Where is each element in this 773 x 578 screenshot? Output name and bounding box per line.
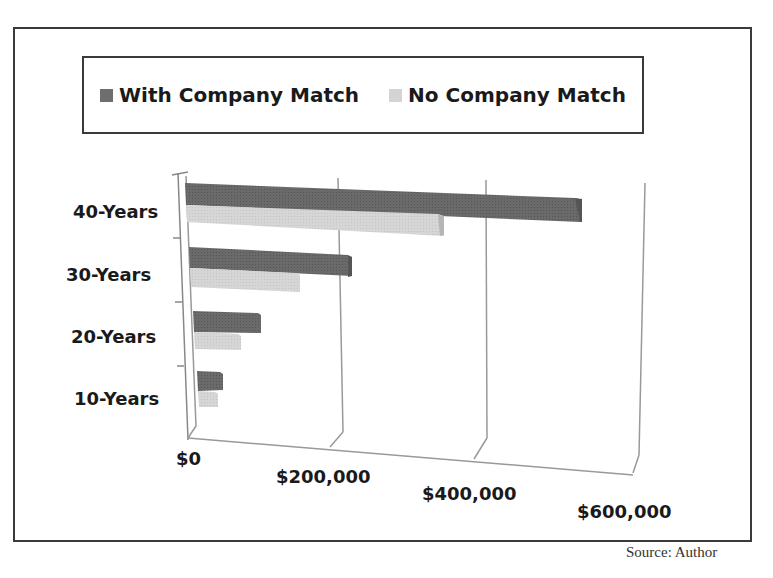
category-label: 40-Years [73, 201, 158, 222]
bar-group-10-years [197, 371, 223, 407]
x-tick-label: $400,000 [422, 483, 517, 504]
x-tick-label: $0 [176, 448, 201, 469]
category-label: 10-Years [74, 388, 159, 409]
source-caption: Source: Author [626, 544, 717, 561]
chart-plot: 40-Years 30-Years 20-Years 10-Years $0 $… [0, 0, 773, 578]
x-tick-label: $200,000 [276, 466, 371, 487]
x-tick-label: $600,000 [577, 501, 672, 522]
y-axis [172, 172, 188, 440]
bar-group-20-years [193, 311, 261, 350]
category-label: 20-Years [71, 326, 156, 347]
category-label: 30-Years [66, 264, 151, 285]
bar-group-30-years [189, 247, 352, 292]
bar-group-40-years [185, 183, 582, 236]
